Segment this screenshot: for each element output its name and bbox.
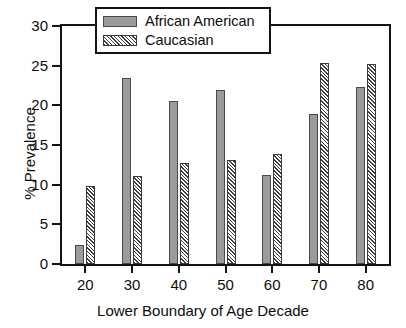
bars-layer (62, 26, 389, 264)
y-tick-20 (52, 104, 60, 106)
x-tick-50 (225, 266, 227, 273)
bar-caucasian-80 (367, 64, 376, 264)
y-tick-label-10: 10 (8, 177, 48, 192)
legend: African American Caucasian (95, 7, 271, 54)
y-tick-label-0: 0 (8, 256, 48, 271)
legend-item-caucasian: Caucasian (103, 31, 269, 50)
bar-african-american-80 (356, 87, 365, 264)
legend-item-african-american: African American (103, 12, 269, 31)
y-tick-label-25: 25 (8, 58, 48, 73)
x-axis-title: Lower Boundary of Age Decade (0, 302, 406, 319)
x-tick-40 (178, 266, 180, 273)
bar-african-american-40 (169, 101, 178, 264)
x-tick-label-20: 20 (65, 277, 105, 292)
y-tick-15 (52, 144, 60, 146)
legend-label-african-american: African American (145, 14, 255, 29)
bar-african-american-30 (122, 78, 131, 264)
x-tick-label-70: 70 (299, 277, 339, 292)
y-tick-5 (52, 223, 60, 225)
bar-african-american-20 (75, 245, 84, 264)
bar-caucasian-60 (273, 154, 282, 264)
x-tick-label-40: 40 (159, 277, 199, 292)
y-tick-25 (52, 65, 60, 67)
bar-african-american-60 (262, 175, 271, 264)
legend-swatch-solid-icon (103, 16, 137, 27)
bar-caucasian-70 (320, 63, 329, 265)
x-tick-80 (365, 266, 367, 273)
x-tick-label-30: 30 (112, 277, 152, 292)
x-tick-30 (131, 266, 133, 273)
x-tick-60 (271, 266, 273, 273)
x-tick-70 (318, 266, 320, 273)
bar-caucasian-30 (133, 176, 142, 264)
bar-african-american-50 (216, 90, 225, 264)
bar-chart-figure: % Prevalence Lower Boundary of Age Decad… (0, 0, 406, 328)
x-tick-label-80: 80 (346, 277, 386, 292)
y-tick-0 (52, 263, 60, 265)
bar-caucasian-20 (86, 186, 95, 264)
bar-caucasian-50 (227, 160, 236, 264)
bar-african-american-70 (309, 114, 318, 264)
y-tick-label-30: 30 (8, 18, 48, 33)
y-tick-30 (52, 25, 60, 27)
y-tick-label-20: 20 (8, 97, 48, 112)
legend-swatch-hatch-icon (103, 35, 137, 46)
x-tick-20 (84, 266, 86, 273)
y-tick-label-5: 5 (8, 216, 48, 231)
y-tick-10 (52, 184, 60, 186)
x-tick-label-50: 50 (206, 277, 246, 292)
y-tick-label-15: 15 (8, 137, 48, 152)
x-tick-label-60: 60 (252, 277, 292, 292)
bar-caucasian-40 (180, 163, 189, 264)
legend-label-caucasian: Caucasian (145, 33, 214, 48)
